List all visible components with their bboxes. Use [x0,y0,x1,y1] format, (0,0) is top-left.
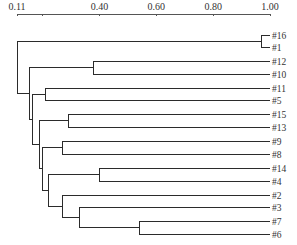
leaf-label: #6 [272,230,282,240]
leaf-label: #16 [272,31,287,41]
dendrogram-branch [45,88,270,100]
leaf-label: #4 [272,177,282,187]
axis-tick-label: 0.11 [8,1,25,12]
axis-tick-label: 0.80 [204,1,222,12]
leaf-label: #14 [272,164,287,174]
dendrogram-branch [48,175,99,207]
dendrogram-branch [68,114,270,127]
dendrogram-branch [261,35,270,47]
leaf-label: #9 [272,137,282,147]
dendrogram-branch [33,94,46,145]
axis-tick-label: 1.00 [261,1,279,12]
leaf-label: #3 [272,203,282,213]
leaf-label: #1 [272,43,282,53]
dendrogram-branch [94,61,270,74]
axis-tick-label: 0.60 [148,1,166,12]
leaf-labels: #16#1#12#10#11#5#15#13#9#8#14#4#2#3#7#6 [272,31,287,240]
dendrogram-branch [99,168,270,181]
leaf-label: #12 [272,57,287,67]
dendrogram-branch [30,68,94,120]
leaf-label: #11 [272,84,286,94]
leaf-label: #10 [272,70,287,80]
dendrogram-branch [80,207,270,228]
dendrogram-branch [62,141,270,154]
dendrogram-branch [139,221,270,234]
dendrogram-branch [43,148,63,191]
dendrogram-branch [40,121,68,169]
dendrogram-chart: 0.110.400.600.801.00 #16#1#12#10#11#5#15… [0,0,297,245]
leaf-label: #7 [272,217,282,227]
leaf-label: #15 [272,110,287,120]
similarity-axis: 0.110.400.600.801.00 [8,1,278,16]
dendrogram-tree [17,35,270,234]
leaf-label: #8 [272,150,282,160]
leaf-label: #5 [272,96,282,106]
axis-tick-label: 0.40 [91,1,109,12]
leaf-label: #2 [272,191,282,201]
dendrogram-branch [62,195,270,217]
dendrogram-svg: 0.110.400.600.801.00 #16#1#12#10#11#5#15… [0,0,297,245]
leaf-label: #13 [272,123,287,133]
